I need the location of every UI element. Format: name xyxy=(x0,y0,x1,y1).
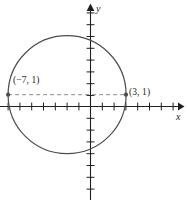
point-marker-right xyxy=(124,93,128,97)
point-label-left: (−7, 1) xyxy=(13,76,40,86)
point-label-right: (3, 1) xyxy=(129,88,150,98)
coordinate-plane-figure: y x (−7, 1) (3, 1) xyxy=(0,0,187,204)
point-marker-left xyxy=(6,93,10,97)
y-axis-label: y xyxy=(96,4,100,14)
y-axis-arrow-icon xyxy=(87,4,95,12)
x-axis-label: x xyxy=(176,112,180,122)
graph-canvas xyxy=(0,0,187,204)
x-axis-arrow-icon xyxy=(178,103,185,111)
